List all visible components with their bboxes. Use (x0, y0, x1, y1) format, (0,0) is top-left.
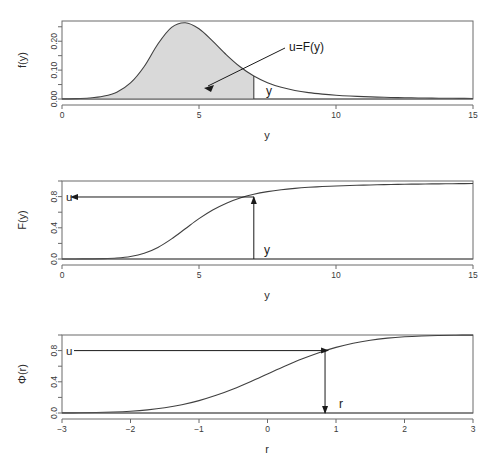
x-tick-label: 1 (334, 424, 339, 434)
y-tick-label: 0.0 (49, 253, 59, 265)
y-tick-label: 0.20 (49, 33, 59, 50)
shaded-area (62, 23, 255, 99)
annotation-u-horizontal: u (66, 191, 254, 203)
x-tick-label: −2 (126, 424, 136, 434)
y-axis-title: F(y) (16, 210, 28, 230)
x-tick-label: 0 (265, 424, 270, 434)
r-label: r (339, 397, 343, 411)
panel-density-plot: 0.000.100.20 051015 f(y) y u=F(y) y (0, 0, 498, 160)
normal-cdf-plot-svg: u r 0.00.40.8 −3−2−10123 Φ(r) r (0, 313, 498, 470)
x-tick-label: 5 (197, 110, 202, 120)
x-axis-title: y (264, 129, 270, 141)
u-label: u (66, 345, 72, 357)
y-label: y (264, 243, 270, 257)
annotation-u-horizontal: u (66, 345, 329, 357)
y-tick-label: 0.4 (49, 376, 59, 388)
y-tick-label: 0.10 (49, 62, 59, 79)
y-axis-ticks: 0.00.40.8 (49, 181, 62, 265)
y-tick-label: 0.8 (49, 190, 59, 202)
quantile-label-y: y (266, 84, 272, 98)
x-axis-ticks: −3−2−10123 (57, 419, 475, 434)
y-tick-label: 0.8 (49, 344, 59, 356)
x-tick-label: 15 (468, 270, 478, 280)
cdf-plot-svg: u y 0.00.40.8 051015 F(y) y (0, 157, 498, 317)
x-tick-label: −1 (194, 424, 204, 434)
x-tick-label: 3 (471, 424, 476, 434)
annotation-label-u-equals-Fy: u=F(y) (289, 40, 324, 54)
normal-cdf-curve (62, 335, 473, 413)
density-plot-svg: 0.000.100.20 051015 f(y) y u=F(y) y (0, 0, 498, 160)
x-tick-label: 0 (60, 110, 65, 120)
y-axis-ticks: 0.00.40.8 (49, 335, 62, 419)
x-tick-label: −3 (57, 424, 67, 434)
u-label: u (66, 191, 72, 203)
y-tick-label: 0.00 (49, 90, 59, 107)
panel-cdf-plot: u y 0.00.40.8 051015 F(y) y (0, 157, 498, 317)
x-axis-title: r (265, 443, 269, 455)
panel-normal-cdf-plot: u r 0.00.40.8 −3−2−10123 Φ(r) r (0, 313, 498, 470)
annotation-y-vertical: y (251, 196, 270, 259)
x-tick-label: 5 (197, 270, 202, 280)
y-axis-title: Φ(r) (16, 364, 28, 384)
inverse-transform-figure: 0.000.100.20 051015 f(y) y u=F(y) y (0, 0, 498, 470)
x-tick-label: 10 (331, 270, 341, 280)
y-axis-ticks: 0.000.100.20 (49, 27, 62, 107)
y-tick-label: 0.0 (49, 407, 59, 419)
x-axis-title: y (264, 289, 270, 301)
y-tick-label: 0.4 (49, 222, 59, 234)
x-tick-label: 15 (468, 110, 478, 120)
x-tick-label: 2 (402, 424, 407, 434)
x-tick-label: 10 (331, 110, 341, 120)
y-axis-title: f(y) (16, 52, 28, 68)
x-tick-label: 0 (60, 270, 65, 280)
x-axis-ticks: 051015 (60, 265, 478, 280)
annotation-r-vertical: r (322, 351, 343, 414)
x-axis-ticks: 051015 (60, 105, 478, 120)
